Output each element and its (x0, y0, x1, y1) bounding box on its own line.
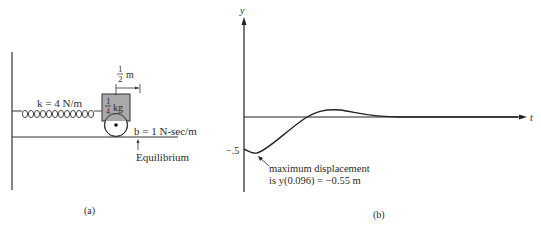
offset-den: 2 (118, 74, 123, 84)
offset-unit: m (126, 69, 134, 80)
t-axis-label: t (530, 112, 533, 123)
mass-label-num: 1 (106, 96, 111, 106)
panel-b: y t −.5 maximum displacement is y(0.096)… (226, 5, 533, 221)
equilibrium-arrow-icon (137, 139, 140, 143)
equilibrium-label: Equilibrium (136, 151, 190, 163)
annotation-line2: is y(0.096) = −0.55 m (269, 175, 361, 187)
mass-label-den: 4 (106, 107, 110, 116)
response-curve (244, 110, 518, 153)
caption-b: (b) (373, 209, 385, 221)
annotation-line1: maximum displacement (269, 163, 370, 174)
t-axis-arrow-icon (519, 115, 527, 120)
offset-arrowhead-icon (135, 87, 139, 90)
spring-label: k = 4 N/m (37, 97, 82, 109)
panel-a: k = 4 N/m 1 4 kg 1 2 m b = 1 N-sec/m Equ… (12, 52, 197, 217)
damper-label: b = 1 N-sec/m (134, 125, 197, 137)
spring-icon (22, 110, 102, 117)
y-axis-arrow-icon (242, 17, 247, 25)
y-axis-label: y (239, 5, 245, 16)
y-tick-label: −.5 (226, 145, 239, 156)
mass-label-unit: kg (113, 102, 123, 113)
caption-a: (a) (84, 205, 95, 217)
offset-num: 1 (118, 64, 123, 74)
figure: k = 4 N/m 1 4 kg 1 2 m b = 1 N-sec/m Equ… (0, 0, 541, 228)
wheel-center-dot (114, 123, 118, 127)
